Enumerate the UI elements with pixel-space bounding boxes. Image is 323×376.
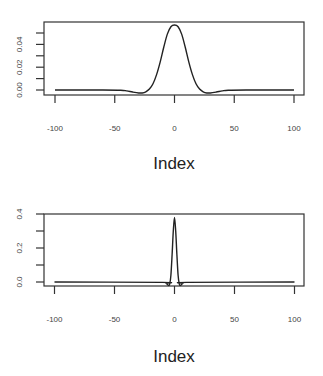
top-plot-panel: 0.000.020.04 -100-50050100 Index xyxy=(15,22,304,173)
y-tick-label: 0.00 xyxy=(15,82,24,98)
y-tick-label: 0.0 xyxy=(15,276,24,288)
bottom-plot-panel: 0.00.20.4 -100-50050100 Index xyxy=(15,208,304,366)
y-tick-label: 0.02 xyxy=(15,59,24,75)
top-x-axis: -100-50050100 xyxy=(47,95,301,133)
x-tick-label: -100 xyxy=(46,315,63,324)
y-tick-label: 0.4 xyxy=(15,208,24,220)
top-series-line xyxy=(55,25,294,93)
figure-canvas: 0.000.020.04 -100-50050100 Index 0.00.20… xyxy=(0,0,323,376)
bottom-x-axis: -100-50050100 xyxy=(46,286,301,324)
top-x-axis-title: Index xyxy=(153,154,195,173)
x-tick-label: 100 xyxy=(287,124,301,133)
y-tick-label: 0.04 xyxy=(15,36,24,52)
x-tick-label: -50 xyxy=(109,315,121,324)
x-tick-label: 50 xyxy=(230,315,239,324)
x-tick-label: 50 xyxy=(230,124,239,133)
top-plot-box xyxy=(44,22,304,95)
x-tick-label: -100 xyxy=(47,124,64,133)
x-tick-label: 100 xyxy=(288,315,302,324)
bottom-series-line xyxy=(55,217,295,285)
x-tick-label: -50 xyxy=(109,124,121,133)
top-y-axis: 0.000.020.04 xyxy=(15,33,44,98)
x-tick-label: 0 xyxy=(172,315,177,324)
bottom-y-axis: 0.00.20.4 xyxy=(15,208,44,288)
x-tick-label: 0 xyxy=(172,124,177,133)
y-tick-label: 0.2 xyxy=(15,242,24,254)
bottom-x-axis-title: Index xyxy=(153,347,195,366)
